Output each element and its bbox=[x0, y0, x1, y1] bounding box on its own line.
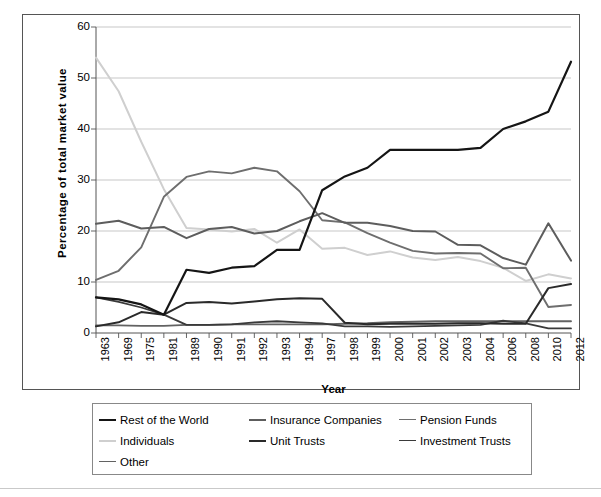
legend-label: Other bbox=[120, 456, 149, 468]
x-tick-label: 1992 bbox=[258, 337, 269, 361]
series-line bbox=[96, 62, 571, 315]
legend-item[interactable]: Investment Trusts bbox=[399, 435, 529, 447]
chart-screenshot: Percentage of total market value 0102030… bbox=[0, 0, 601, 497]
chart-frame: Percentage of total market value 0102030… bbox=[22, 14, 580, 390]
x-tick-label: 2010 bbox=[552, 337, 563, 361]
y-tick-label: 50 bbox=[60, 72, 90, 84]
x-tick-label: 1981 bbox=[168, 337, 179, 361]
x-tick-label: 2006 bbox=[507, 337, 518, 361]
legend-label: Unit Trusts bbox=[270, 435, 325, 447]
x-tick-label: 2008 bbox=[530, 337, 541, 361]
legend-line-swatch bbox=[399, 440, 416, 441]
legend-line-swatch bbox=[99, 419, 116, 421]
y-tick-label: 0 bbox=[60, 327, 90, 339]
x-axis-tick-labels: 1963196919751981198919901991199219931994… bbox=[96, 337, 571, 381]
series-line bbox=[96, 284, 571, 326]
legend-line-swatch bbox=[399, 419, 416, 420]
x-tick-label: 2002 bbox=[439, 337, 450, 361]
legend-item[interactable]: Pension Funds bbox=[399, 414, 529, 426]
x-tick-label: 1999 bbox=[371, 337, 382, 361]
y-tick-label: 10 bbox=[60, 276, 90, 288]
x-tick-label: 1963 bbox=[100, 337, 111, 361]
x-tick-label: 1975 bbox=[145, 337, 156, 361]
x-tick-label: 2004 bbox=[485, 337, 496, 361]
x-tick-label: 1997 bbox=[326, 337, 337, 361]
x-tick-label: 1993 bbox=[281, 337, 292, 361]
x-tick-label: 2012 bbox=[575, 337, 586, 361]
axis-lines bbox=[91, 27, 571, 338]
y-tick-label: 30 bbox=[60, 174, 90, 186]
legend-item[interactable]: Insurance Companies bbox=[249, 414, 399, 426]
chart-legend: Rest of the WorldInsurance CompaniesPens… bbox=[92, 403, 532, 475]
legend-item[interactable]: Unit Trusts bbox=[249, 435, 399, 447]
x-tick-label: 2003 bbox=[462, 337, 473, 361]
legend-item[interactable]: Rest of the World bbox=[99, 414, 249, 426]
legend-line-swatch bbox=[99, 440, 116, 442]
y-tick-label: 20 bbox=[60, 225, 90, 237]
x-axis-title: Year bbox=[96, 383, 571, 395]
series-group bbox=[96, 58, 571, 329]
legend-label: Investment Trusts bbox=[420, 435, 511, 447]
series-line bbox=[96, 58, 571, 281]
legend-line-swatch bbox=[249, 440, 266, 442]
legend-line-swatch bbox=[99, 461, 116, 462]
bottom-divider bbox=[0, 488, 601, 489]
legend-item[interactable]: Individuals bbox=[99, 435, 249, 447]
x-tick-label: 2001 bbox=[417, 337, 428, 361]
y-tick-label: 60 bbox=[60, 21, 90, 33]
plot-svg bbox=[96, 27, 571, 333]
y-axis-tick-labels: 0102030405060 bbox=[56, 27, 90, 333]
series-line bbox=[96, 168, 571, 307]
y-tick-label: 40 bbox=[60, 123, 90, 135]
legend-label: Individuals bbox=[120, 435, 174, 447]
x-tick-label: 1998 bbox=[349, 337, 360, 361]
plot-area bbox=[96, 27, 571, 333]
x-tick-label: 1990 bbox=[213, 337, 224, 361]
gridlines bbox=[96, 27, 571, 282]
x-tick-label: 1994 bbox=[304, 337, 315, 361]
x-tick-label: 1989 bbox=[190, 337, 201, 361]
legend-line-swatch bbox=[249, 419, 266, 421]
legend-grid: Rest of the WorldInsurance CompaniesPens… bbox=[99, 409, 525, 472]
legend-label: Pension Funds bbox=[420, 414, 497, 426]
legend-label: Rest of the World bbox=[120, 414, 209, 426]
legend-label: Insurance Companies bbox=[270, 414, 382, 426]
x-tick-label: 2000 bbox=[394, 337, 405, 361]
x-tick-label: 1969 bbox=[123, 337, 134, 361]
x-tick-label: 1991 bbox=[236, 337, 247, 361]
legend-item[interactable]: Other bbox=[99, 456, 249, 468]
